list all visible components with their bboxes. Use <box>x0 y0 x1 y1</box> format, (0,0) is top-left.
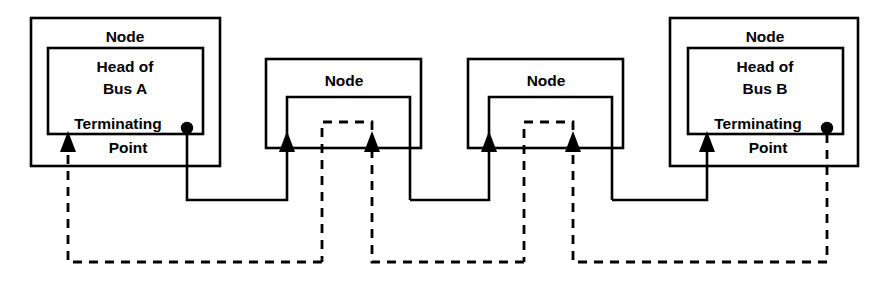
node-b-head-line1: Head of <box>737 58 795 75</box>
bus-a-link-3 <box>612 146 707 200</box>
node-a-head-line2: Bus A <box>103 80 147 97</box>
node-b-terminating-point-dot <box>821 122 833 134</box>
bus-b-node1-internal <box>322 122 372 262</box>
node-a-terminating-point-dot <box>181 122 193 134</box>
node-a-outer-label: Node <box>106 28 145 45</box>
node-middle-2-label: Node <box>527 72 566 89</box>
diagram-canvas: Node Head of Bus A Terminating Point Nod… <box>0 0 889 285</box>
bus-b-node2-internal <box>524 122 573 262</box>
node-b-head-line2: Bus B <box>743 80 788 97</box>
node-middle-1[interactable]: Node <box>266 59 421 152</box>
node-b-terminating-label: Terminating <box>714 115 802 132</box>
node-b-outer-label: Node <box>746 28 785 45</box>
node-middle-2-bus-b-arrowhead <box>565 131 581 152</box>
bus-a-link-2 <box>410 146 489 200</box>
bus-b-link-2 <box>372 146 524 262</box>
node-head-bus-a[interactable]: Node Head of Bus A Terminating Point <box>31 18 220 166</box>
bus-b-link-3 <box>68 146 322 262</box>
node-middle-1-bus-b-arrowhead <box>364 131 380 152</box>
node-middle-2[interactable]: Node <box>468 59 623 152</box>
node-a-point-label: Point <box>109 139 148 156</box>
dual-bus-node-diagram: Node Head of Bus A Terminating Point Nod… <box>0 0 889 285</box>
node-middle-1-bus-a-arrowhead <box>279 131 295 152</box>
node-head-bus-b[interactable]: Node Head of Bus B Terminating Point <box>670 18 858 166</box>
node-a-head-line1: Head of <box>97 58 155 75</box>
bus-b-dashed-links <box>68 122 827 262</box>
node-middle-2-bus-a-arrowhead <box>481 131 497 152</box>
node-a-terminating-label: Terminating <box>74 115 162 132</box>
node-middle-1-label: Node <box>325 72 364 89</box>
node-b-point-label: Point <box>749 139 788 156</box>
